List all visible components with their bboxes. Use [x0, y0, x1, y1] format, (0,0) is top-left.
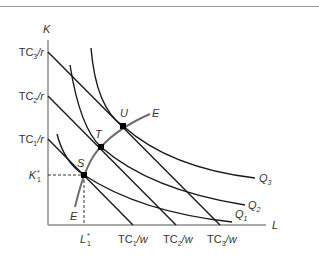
x-tick-tc3-w: TC3/w	[207, 233, 238, 247]
x-tick-l1-star: L	[80, 233, 86, 245]
expansion-path-diagram: K L TC3/r TC2/r TC1/r K * 1 L * 1 TC1/w …	[0, 0, 319, 259]
y-tick-k1-star: K	[29, 169, 37, 181]
point-u	[120, 123, 126, 129]
x-tick-tc1-w: TC1/w	[118, 233, 149, 247]
point-s	[81, 172, 87, 178]
y-tick-k1-star-sup: *	[37, 169, 40, 176]
isoquant-q3-label: Q3	[259, 172, 272, 186]
x-axis-label: L	[272, 219, 278, 231]
y-tick-tc1-r: TC1/r	[19, 133, 46, 147]
x-tick-tc2-w: TC2/w	[163, 233, 194, 247]
y-axis-label: K	[43, 23, 51, 35]
point-t	[98, 144, 104, 150]
isoquant-q2-label: Q2	[248, 199, 261, 213]
expansion-path-label-bottom: E	[70, 210, 78, 222]
y-tick-tc2-r: TC2/r	[19, 90, 46, 104]
isocost-line-3	[48, 52, 220, 225]
y-tick-k1-star-sub: 1	[37, 176, 41, 183]
x-tick-l1-star-sup: *	[87, 232, 90, 239]
point-u-label: U	[120, 107, 128, 119]
isocost-line-1	[48, 139, 133, 225]
isoquant-q1-label: Q1	[235, 208, 248, 222]
point-s-label: S	[77, 157, 85, 169]
point-t-label: T	[95, 128, 103, 140]
x-tick-l1-star-sub: 1	[87, 240, 91, 247]
y-tick-tc3-r: TC3/r	[19, 46, 46, 60]
expansion-path-label-top: E	[152, 107, 160, 119]
